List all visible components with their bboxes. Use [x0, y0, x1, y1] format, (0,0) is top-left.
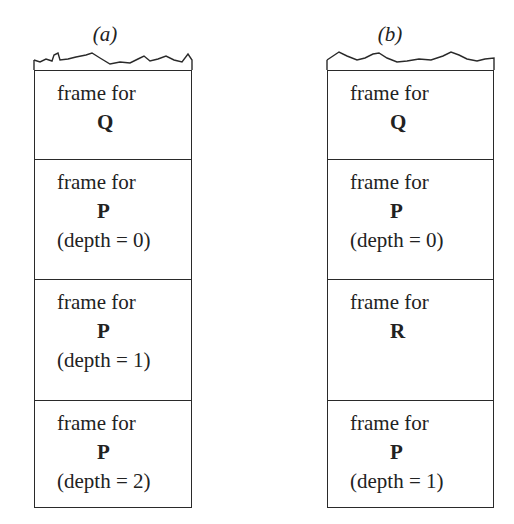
- stack-a: frame for Q frame for P (depth = 0) fram…: [34, 70, 192, 508]
- frame-depth: (depth = 1): [57, 346, 151, 374]
- frame-proc: P: [97, 197, 110, 225]
- frame-label: frame for: [350, 79, 429, 107]
- frame-depth: (depth = 0): [57, 226, 151, 254]
- frame-label: frame for: [350, 168, 429, 196]
- stack-b: frame for Q frame for P (depth = 0) fram…: [327, 70, 494, 508]
- frame-label: frame for: [57, 288, 136, 316]
- frame-label: frame for: [57, 79, 136, 107]
- frame-depth: (depth = 1): [350, 467, 444, 495]
- frame-b-p1: frame for P (depth = 1): [328, 401, 493, 506]
- frame-proc: Q: [390, 108, 406, 136]
- frame-depth: (depth = 2): [57, 467, 151, 495]
- frame-a-p0: frame for P (depth = 0): [35, 160, 191, 280]
- frame-b-r: frame for R: [328, 280, 493, 401]
- frame-b-p0: frame for P (depth = 0): [328, 160, 493, 280]
- frame-depth: (depth = 0): [350, 226, 444, 254]
- frame-a-p2: frame for P (depth = 2): [35, 401, 191, 506]
- frame-a-p1: frame for P (depth = 1): [35, 280, 191, 401]
- frame-proc: P: [390, 438, 403, 466]
- frame-proc: P: [97, 438, 110, 466]
- frame-proc: P: [390, 197, 403, 225]
- frame-label: frame for: [350, 288, 429, 316]
- panel-a-label: (a): [75, 22, 135, 47]
- frame-proc: R: [390, 317, 405, 345]
- frame-a-q: frame for Q: [35, 71, 191, 160]
- frame-label: frame for: [57, 409, 136, 437]
- stack-a-torn-top-icon: [34, 50, 192, 72]
- frame-label: frame for: [57, 168, 136, 196]
- frame-b-q: frame for Q: [328, 71, 493, 160]
- frame-proc: P: [97, 317, 110, 345]
- frame-proc: Q: [97, 108, 113, 136]
- frame-label: frame for: [350, 409, 429, 437]
- stack-b-torn-top-icon: [327, 50, 494, 72]
- panel-b-label: (b): [360, 22, 420, 47]
